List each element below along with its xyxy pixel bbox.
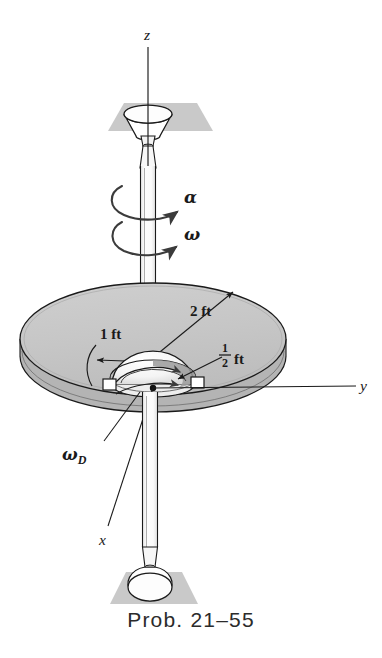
y-axis-label: y (358, 377, 367, 394)
figure-root: z 2 ft (0, 0, 382, 658)
omega-d-symbol: ω (62, 445, 78, 464)
bottom-support-assembly (110, 547, 198, 604)
bottom-shaft-taper (143, 547, 158, 567)
omega-rotation-annotation: ω (112, 222, 200, 255)
bearing-block-left (103, 379, 116, 390)
outer-radius-label: 2 ft (190, 303, 211, 319)
bottom-bearing-ball-icon (128, 573, 172, 601)
inner-radius-label: 1 ft (100, 326, 121, 342)
vertical-shaft-lower (142, 392, 158, 547)
shaft-lower-body (142, 392, 158, 547)
alpha-label: α (184, 187, 197, 207)
omega-label: ω (184, 224, 200, 244)
top-support-assembly (108, 103, 213, 168)
figure-caption: Prob. 21–55 (0, 608, 382, 632)
x-axis-label: x (98, 531, 106, 548)
dome-radius-denominator: 2 (222, 356, 228, 370)
omega-d-subscript: D (77, 453, 87, 467)
dome-radius-numerator: 1 (222, 341, 228, 355)
mechanics-diagram: z 2 ft (0, 0, 382, 658)
dome-radius-unit: ft (234, 351, 244, 367)
z-axis-label: z (143, 26, 150, 43)
bearing-block-right (191, 377, 204, 388)
omega-d-label: ωD (62, 445, 87, 467)
